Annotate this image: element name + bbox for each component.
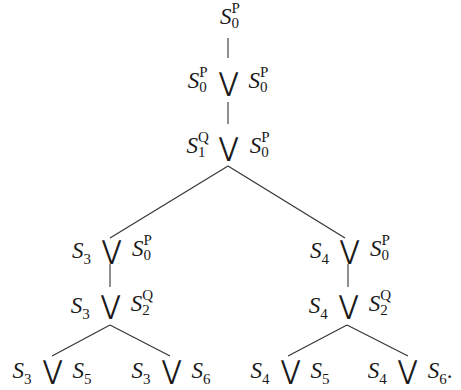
term: S 4 [310, 239, 329, 262]
term-sup: Q [142, 288, 153, 303]
term: S Q2 [131, 292, 153, 318]
term-base: S [131, 292, 143, 315]
or-operator-icon: ⋁ [101, 292, 120, 318]
leaf-node-2: S 3 ⋁ S 6 [132, 357, 211, 383]
or-operator-icon: ⋁ [340, 237, 359, 263]
trailing-period: . [447, 359, 453, 382]
term: S 3 [72, 239, 91, 262]
or-operator-icon: ⋁ [219, 69, 238, 95]
term-sup: P [232, 1, 240, 16]
term-sub: 3 [82, 307, 90, 322]
term-sub: 1 [198, 145, 209, 160]
term-base: S [428, 359, 440, 382]
term-sub: 6 [439, 372, 447, 387]
term-sub: 2 [142, 303, 153, 318]
term-base: S [249, 69, 261, 92]
term: S 4 [368, 359, 387, 382]
node-level3: S Q1 ⋁ S P0 [186, 134, 269, 160]
or-operator-icon: ⋁ [162, 357, 181, 383]
node-level5-right: S 4 ⋁ S Q2 [309, 292, 391, 318]
term-sub: 3 [24, 372, 32, 387]
or-operator-icon: ⋁ [43, 357, 62, 383]
term-sup: Q [198, 130, 209, 145]
term-sup: P [260, 65, 268, 80]
term: S 6 [192, 359, 211, 382]
term: S P0 [132, 237, 152, 263]
node-level4-right: S 4 ⋁ S P0 [310, 237, 390, 263]
term-sup: P [382, 233, 390, 248]
term: S P0 [188, 69, 208, 95]
term-base: S [310, 239, 322, 262]
term-sup: Q [380, 288, 391, 303]
term-sup: P [261, 130, 269, 145]
term-sub: 4 [320, 307, 328, 322]
term-base: S [13, 359, 25, 382]
or-operator-icon: ⋁ [339, 292, 358, 318]
node-level2: S P0 ⋁ S P0 [188, 69, 269, 95]
term: S P0 [249, 69, 269, 95]
term-base: S [73, 359, 85, 382]
term-base: S [311, 359, 323, 382]
term-base: S [369, 292, 381, 315]
leaf-node-3: S 4 ⋁ S 5 [251, 357, 330, 383]
term-base: S [71, 294, 83, 317]
edge-n5l-leaf1 [52, 325, 110, 356]
or-operator-icon: ⋁ [102, 237, 121, 263]
term-base: S [250, 134, 262, 157]
or-operator-icon: ⋁ [220, 134, 239, 160]
edge-n3-n4r [228, 166, 345, 238]
term-base: S [132, 359, 144, 382]
term: S 4 [251, 359, 270, 382]
term-sub: 3 [84, 252, 92, 267]
node-root: S P0 [220, 5, 240, 31]
term-base: S [220, 5, 232, 28]
term-base: S [132, 237, 144, 260]
term-sub: 0 [144, 248, 152, 263]
term-sub: 2 [380, 303, 391, 318]
term: S P0 [370, 237, 390, 263]
node-level4-left: S 3 ⋁ S P0 [72, 237, 152, 263]
term-sub: 5 [84, 372, 92, 387]
term-sub: 3 [143, 372, 151, 387]
term-sub: 4 [322, 252, 330, 267]
term-base: S [251, 359, 263, 382]
term: S 3 [71, 294, 90, 317]
term-sub: 6 [203, 372, 211, 387]
tree-edges [0, 0, 461, 390]
term: S 6 [428, 359, 447, 382]
term: S P0 [220, 5, 240, 31]
term-base: S [72, 239, 84, 262]
edge-n5l-leaf2 [110, 325, 170, 356]
or-operator-icon: ⋁ [398, 357, 417, 383]
leaf-node-1: S 3 ⋁ S 5 [13, 357, 92, 383]
term-sub: 4 [262, 372, 270, 387]
term-base: S [186, 134, 198, 157]
term-sub: 0 [261, 145, 269, 160]
node-level5-left: S 3 ⋁ S Q2 [71, 292, 153, 318]
term: S Q1 [186, 134, 208, 160]
leaf-node-4: S 4 ⋁ S 6 . [368, 357, 453, 383]
term-base: S [370, 237, 382, 260]
term-base: S [309, 294, 321, 317]
term-sub: 4 [379, 372, 387, 387]
term: S 3 [132, 359, 151, 382]
term-sub: 0 [232, 16, 240, 31]
term-sub: 0 [382, 248, 390, 263]
term-sub: 0 [260, 80, 268, 95]
term-sub: 5 [322, 372, 330, 387]
term: S P0 [250, 134, 270, 160]
term-sub: 0 [199, 80, 207, 95]
term: S 4 [309, 294, 328, 317]
edge-n3-n4l [110, 166, 228, 238]
edge-n5r-leaf4 [347, 325, 408, 356]
or-operator-icon: ⋁ [281, 357, 300, 383]
term-sup: P [144, 233, 152, 248]
term: S Q2 [369, 292, 391, 318]
term: S 5 [311, 359, 330, 382]
edge-n5r-leaf3 [288, 325, 347, 356]
term-base: S [368, 359, 380, 382]
term-base: S [188, 69, 200, 92]
term-base: S [192, 359, 204, 382]
term: S 5 [73, 359, 92, 382]
term-sup: P [199, 65, 207, 80]
